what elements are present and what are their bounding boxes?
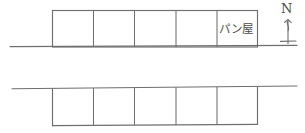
upper-lot-5-bakery[interactable] xyxy=(218,11,258,47)
upper-lot-4[interactable] xyxy=(177,11,217,47)
lower-lot-4[interactable] xyxy=(177,88,217,124)
upper-lot-1[interactable] xyxy=(53,11,93,47)
upper-lot-3[interactable] xyxy=(135,11,175,47)
lower-lot-1[interactable] xyxy=(53,89,93,125)
lower-lot-5[interactable] xyxy=(218,87,258,123)
north-arrow-icon xyxy=(281,20,297,45)
upper-lot-2[interactable] xyxy=(94,11,134,47)
map-figure: パン屋 N xyxy=(0,0,305,133)
lower-lot-2[interactable] xyxy=(94,89,134,125)
map-drawing xyxy=(0,0,305,133)
lower-block xyxy=(52,86,258,125)
lower-lot-3[interactable] xyxy=(135,88,175,124)
upper-block xyxy=(53,11,258,48)
